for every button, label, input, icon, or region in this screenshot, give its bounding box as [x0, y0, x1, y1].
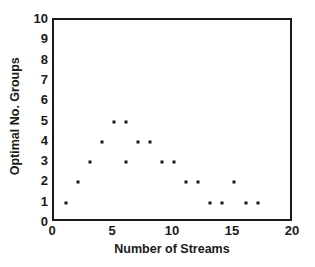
data-point: [149, 140, 152, 143]
data-point: [101, 140, 104, 143]
x-tick-label: 10: [152, 224, 192, 237]
data-point: [77, 181, 80, 184]
data-point: [113, 120, 116, 123]
data-point: [65, 201, 68, 204]
data-point: [161, 161, 164, 164]
data-point: [197, 181, 200, 184]
data-point: [257, 201, 260, 204]
data-point: [209, 201, 212, 204]
scatter-plot-figure: 012345678910 05101520 Number of Streams …: [0, 0, 315, 267]
x-tick-label: 0: [32, 224, 72, 237]
data-point: [245, 201, 248, 204]
data-point: [221, 201, 224, 204]
plot-data-area: [54, 20, 290, 219]
y-axis-title: Optimal No. Groups: [9, 15, 22, 218]
data-point: [125, 120, 128, 123]
plot-frame: [52, 18, 292, 221]
x-axis-title: Number of Streams: [52, 243, 292, 256]
x-tick-label: 15: [212, 224, 252, 237]
data-point: [233, 181, 236, 184]
x-tick-label: 20: [272, 224, 312, 237]
data-point: [125, 161, 128, 164]
data-point: [173, 161, 176, 164]
data-point: [185, 181, 188, 184]
data-point: [137, 140, 140, 143]
x-tick-label: 5: [92, 224, 132, 237]
data-point: [89, 161, 92, 164]
